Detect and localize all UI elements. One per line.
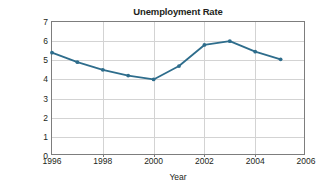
- chart-title: Unemployment Rate: [51, 6, 305, 17]
- y-tick-label: 6: [26, 37, 48, 46]
- y-tick-label: 4: [26, 75, 48, 84]
- x-tick-label: 2004: [237, 157, 273, 166]
- data-point: [177, 64, 181, 68]
- x-tick-label: 2006: [288, 157, 324, 166]
- y-tick-label: 7: [26, 18, 48, 27]
- chart-figure: Unemployment Rate 01234567 1996199820002…: [0, 0, 324, 188]
- data-point: [253, 50, 257, 54]
- y-tick-label: 3: [26, 94, 48, 103]
- y-tick-label: 5: [26, 56, 48, 65]
- data-point: [50, 51, 54, 55]
- x-tick-label: 2002: [186, 157, 222, 166]
- data-point: [152, 78, 156, 82]
- data-series-unemployment-rate: [52, 22, 306, 156]
- data-point: [76, 60, 80, 64]
- x-axis-label: Year: [51, 172, 305, 182]
- data-point: [228, 39, 232, 43]
- x-tick-label: 2000: [136, 157, 172, 166]
- series-line: [52, 41, 281, 79]
- x-tick-label: 1998: [85, 157, 121, 166]
- plot-area: 01234567 199619982000200220042006: [51, 21, 305, 155]
- x-tick-label: 1996: [34, 157, 70, 166]
- data-point: [101, 68, 105, 72]
- y-tick-label: 1: [26, 132, 48, 141]
- y-tick-label: 2: [26, 113, 48, 122]
- data-point: [203, 43, 207, 47]
- series-markers: [50, 39, 282, 81]
- data-point: [279, 57, 283, 61]
- data-point: [126, 74, 130, 78]
